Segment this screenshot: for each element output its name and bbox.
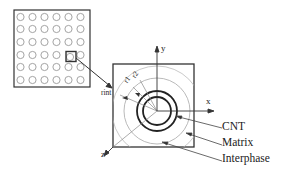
legend-interphase: Interphase xyxy=(222,153,270,165)
z-axis xyxy=(104,147,113,156)
radius-rint-label: rint xyxy=(101,89,111,97)
diagram-canvas xyxy=(0,0,282,177)
z-axis-label: z xyxy=(101,150,105,159)
legend-cnt: CNT xyxy=(222,121,245,133)
composite-cross-section xyxy=(14,10,90,87)
y-axis-label: y xyxy=(161,44,166,53)
rve-diagram: y x z r1 r2 rint CNT Matrix Interphase xyxy=(0,0,282,177)
legend-matrix: Matrix xyxy=(222,137,253,149)
x-axis-label: x xyxy=(206,97,211,106)
